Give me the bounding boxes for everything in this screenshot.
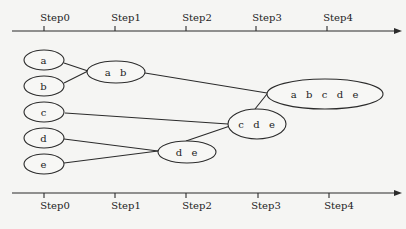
clustering-diagram: Step0 Step1 Step2 Step3 Step4 a b c d e	[0, 0, 406, 229]
edge-c-cde	[65, 113, 228, 124]
node-b: b	[24, 76, 64, 96]
node-ab: a b	[87, 61, 145, 83]
bottom-axis-label-2: Step2	[182, 200, 212, 211]
edge-ab-abcde	[145, 73, 267, 93]
node-c: c	[24, 102, 64, 122]
bottom-axis-arrow-icon	[394, 190, 402, 196]
edge-e-de	[64, 151, 158, 163]
top-axis-label-0: Step0	[40, 12, 70, 23]
node-c-label: c	[41, 107, 48, 118]
node-ab-label: a b	[105, 67, 128, 78]
bottom-axis-label-0: Step0	[40, 200, 70, 211]
top-axis: Step0 Step1 Step2 Step3 Step4	[12, 12, 402, 34]
node-b-label: b	[40, 81, 47, 92]
edge-b-ab	[64, 71, 88, 83]
edge-d-de	[64, 139, 158, 151]
bottom-axis-label-4: Step4	[324, 200, 354, 211]
top-axis-arrow-icon	[394, 28, 402, 34]
node-cde: c d e	[228, 109, 286, 139]
node-a: a	[24, 50, 64, 70]
node-e: e	[24, 154, 64, 174]
top-axis-label-2: Step2	[182, 12, 212, 23]
edge-cde-abcde	[255, 94, 267, 109]
node-d: d	[24, 128, 64, 148]
node-a-label: a	[41, 55, 48, 66]
node-cde-label: c d e	[238, 119, 276, 130]
bottom-axis: Step0 Step1 Step2 Step3 Step4	[12, 190, 402, 211]
node-abcde: a b c d e	[267, 79, 383, 109]
edge-de-cde	[186, 126, 230, 141]
top-axis-label-4: Step4	[323, 12, 353, 23]
bottom-axis-label-3: Step3	[251, 200, 281, 211]
edge-a-ab	[64, 63, 88, 71]
node-d-label: d	[40, 133, 47, 144]
top-axis-label-3: Step3	[252, 12, 282, 23]
top-axis-label-1: Step1	[111, 12, 141, 23]
node-e-label: e	[41, 159, 48, 170]
node-abcde-label: a b c d e	[291, 89, 360, 100]
node-de: d e	[158, 141, 216, 163]
node-de-label: d e	[176, 147, 199, 158]
bottom-axis-label-1: Step1	[111, 200, 141, 211]
